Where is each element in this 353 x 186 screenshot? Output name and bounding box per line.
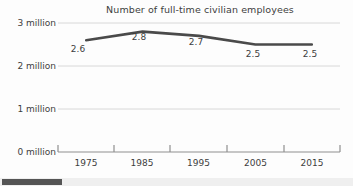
horizontal-scrollbar-track[interactable]	[0, 178, 353, 186]
data-label-1995: 2.7	[176, 37, 216, 47]
y-axis-label-0-million: 0 million	[0, 147, 56, 157]
data-label-1985: 2.8	[119, 32, 159, 42]
chart-container: Number of full-time civilian employees 3…	[0, 0, 353, 186]
data-label-2015: 2.5	[290, 49, 330, 59]
horizontal-scrollbar-thumb[interactable]	[2, 179, 62, 185]
x-axis-label-2005: 2005	[227, 158, 284, 168]
y-axis-label-1-million: 1 million	[0, 104, 56, 114]
data-label-2005: 2.5	[233, 49, 273, 59]
x-axis-label-2015: 2015	[284, 158, 340, 168]
y-axis-label-3-million: 3 million	[0, 18, 56, 28]
x-axis-label-1995: 1995	[170, 158, 227, 168]
x-axis-label-1985: 1985	[114, 158, 170, 168]
data-label-1975: 2.6	[58, 44, 98, 54]
x-axis-label-1975: 1975	[58, 158, 114, 168]
y-axis-label-2-million: 2 million	[0, 61, 56, 71]
